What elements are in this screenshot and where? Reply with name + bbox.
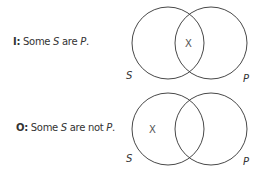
venn-diagrams: X S P X S P — [0, 0, 263, 174]
x-mark: X — [149, 124, 156, 135]
label-p: P — [243, 156, 250, 167]
circle-p — [175, 93, 247, 165]
x-mark: X — [185, 38, 192, 49]
label-p: P — [243, 73, 250, 84]
circle-s — [132, 7, 204, 79]
label-s: S — [126, 153, 133, 164]
label-s: S — [126, 70, 133, 81]
circle-s — [132, 93, 204, 165]
